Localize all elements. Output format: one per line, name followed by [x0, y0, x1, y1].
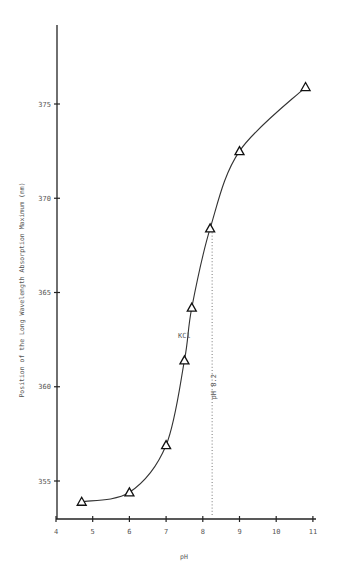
y-tick-label: 355: [38, 478, 51, 486]
y-tick-label: 370: [38, 195, 51, 203]
y-tick-label: 375: [38, 101, 51, 109]
ticks: [54, 104, 313, 522]
y-tick-label: 360: [38, 383, 51, 391]
triangle-marker: [301, 83, 310, 91]
x-tick-label: 5: [91, 528, 95, 536]
x-axis-title: pH: [180, 553, 188, 561]
kcl-label: KCl: [178, 332, 191, 340]
x-tick-label: 7: [164, 528, 168, 536]
x-tick-label: 11: [309, 528, 317, 536]
triangle-marker: [235, 147, 244, 155]
x-tick-label: 9: [237, 528, 241, 536]
x-tick-label: 6: [127, 528, 131, 536]
x-tick-label: 10: [272, 528, 280, 536]
chart: 4567891011355360365370375 KClpH 8.2 pH P…: [0, 0, 337, 586]
fit-curve: [82, 87, 306, 502]
triangle-marker: [162, 441, 171, 449]
x-tick-label: 8: [201, 528, 205, 536]
tick-labels: 4567891011355360365370375: [38, 101, 317, 537]
triangle-marker: [125, 488, 134, 496]
y-axis-title: Position of the Long Wavelength Absorpti…: [18, 182, 26, 397]
triangle-marker: [187, 303, 196, 311]
axes: [56, 25, 316, 519]
y-tick-label: 365: [38, 289, 51, 297]
triangle-marker: [206, 224, 215, 232]
x-tick-label: 4: [54, 528, 58, 536]
ph-8.2-label: pH 8.2: [210, 374, 218, 399]
triangle-marker: [180, 356, 189, 364]
data-markers: [77, 83, 310, 506]
